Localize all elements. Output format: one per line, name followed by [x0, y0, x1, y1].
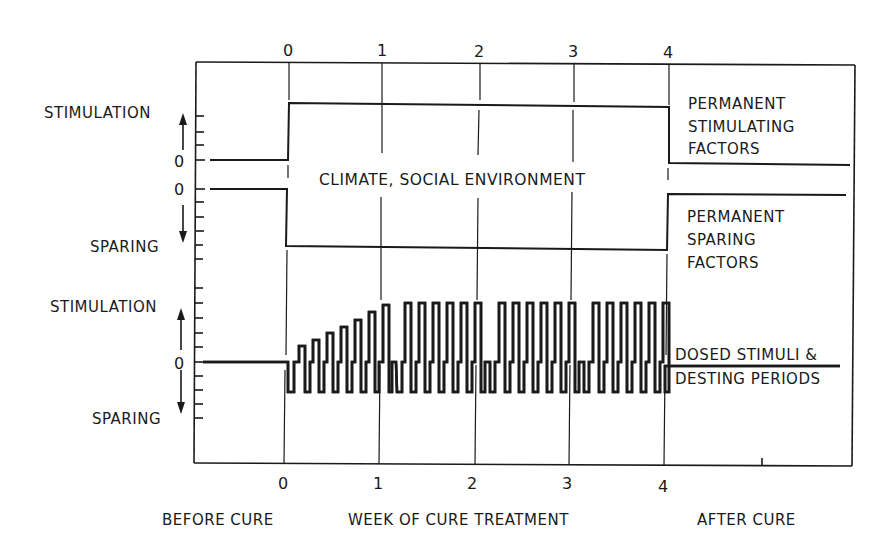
stimulation-arrow-icon: [179, 113, 187, 150]
bottom-tick-2: 2: [467, 474, 477, 493]
top-tick-2: 2: [474, 42, 484, 61]
sparing-arrow-icon: [179, 205, 187, 243]
top-tick-1: 1: [377, 41, 387, 60]
before-cure-label: BEFORE CURE: [162, 511, 274, 529]
week-of-cure-treatment-label: WEEK OF CURE TREATMENT: [348, 511, 569, 529]
cure-treatment-diagram: 0 1 2 3 4 0 1 2 3 4 STIMULATION 0 0 SPAR…: [0, 0, 896, 552]
bottom-tick-0: 0: [278, 474, 288, 493]
bottom-week-ticks: 0 1 2 3 4: [278, 474, 668, 496]
dosed-stimuli-label-line1: DOSED STIMULI &: [675, 346, 817, 364]
top-tick-3: 3: [568, 42, 578, 61]
sparing-arrow-icon-lower: [177, 370, 185, 414]
bottom-tick-1: 1: [373, 474, 383, 493]
y-label-zero-spar: 0: [174, 180, 184, 199]
after-cure-label: AFTER CURE: [697, 511, 796, 529]
perm-stim-label-line3: FACTORS: [688, 140, 760, 158]
perm-spar-label-line1: PERMANENT: [687, 208, 785, 226]
bottom-tick-3: 3: [562, 474, 572, 493]
climate-social-environment-label: CLIMATE, SOCIAL ENVIRONMENT: [319, 171, 585, 189]
perm-spar-label-line2: SPARING: [687, 231, 756, 249]
y-label-stimulation-top: STIMULATION: [44, 104, 151, 122]
y-label-zero-bottom: 0: [174, 354, 184, 373]
top-week-ticks: 0 1 2 3 4: [283, 41, 673, 62]
perm-stim-label-line1: PERMANENT: [688, 95, 786, 113]
y-label-zero-stim: 0: [174, 152, 184, 171]
y-label-sparing-bottom: SPARING: [92, 410, 161, 428]
y-label-sparing-top: SPARING: [90, 238, 159, 256]
y-label-stimulation-bottom: STIMULATION: [50, 298, 157, 316]
stimulation-arrow-icon-lower: [177, 308, 185, 350]
week-gridlines: [284, 62, 669, 465]
top-tick-4: 4: [663, 43, 673, 62]
y-axis-ticks: [195, 116, 205, 418]
perm-spar-label-line3: FACTORS: [687, 254, 759, 272]
top-tick-0: 0: [283, 41, 293, 60]
perm-stim-label-line2: STIMULATING: [688, 118, 795, 136]
bottom-tick-4: 4: [658, 477, 668, 496]
dosed-stimuli-label-line2: DESTING PERIODS: [675, 370, 821, 388]
